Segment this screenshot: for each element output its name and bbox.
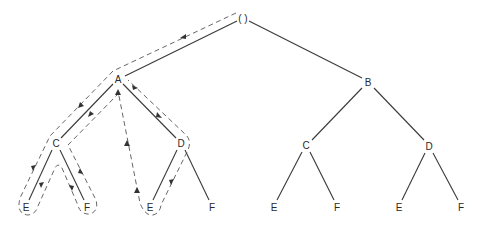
node-root: ( ) bbox=[238, 13, 247, 24]
traversal-path bbox=[19, 13, 236, 215]
trace-outer-left bbox=[19, 13, 236, 215]
node-A: A bbox=[115, 74, 122, 85]
edge-A-C bbox=[61, 84, 113, 138]
node-A-C: C bbox=[52, 138, 59, 149]
node-A-C-F: F bbox=[84, 202, 90, 213]
edge-BC-F bbox=[310, 152, 334, 200]
arrow-icon bbox=[69, 185, 74, 191]
arrow-icon bbox=[78, 168, 83, 174]
edge-root-A bbox=[125, 21, 237, 76]
edge-AC-F bbox=[60, 150, 84, 200]
edge-BD-F bbox=[433, 153, 458, 200]
node-A-D-E: E bbox=[147, 202, 154, 213]
node-B: B bbox=[365, 77, 372, 88]
edge-AC-E bbox=[29, 150, 52, 200]
edge-B-C bbox=[312, 88, 362, 140]
arrow-icon bbox=[78, 102, 84, 108]
arrow-icon bbox=[88, 111, 94, 117]
node-B-D-E: E bbox=[396, 202, 403, 213]
arrow-icon bbox=[124, 140, 130, 146]
node-A-D-F: F bbox=[209, 202, 215, 213]
edge-A-D bbox=[123, 84, 176, 138]
arrow-icon bbox=[39, 182, 44, 188]
edge-root-B bbox=[249, 21, 362, 78]
node-A-C-E: E bbox=[23, 202, 30, 213]
arrow-icon bbox=[180, 34, 186, 39]
arrow-icon bbox=[132, 85, 138, 90]
edge-AD-F bbox=[185, 150, 209, 200]
node-B-C-F: F bbox=[334, 202, 340, 213]
node-B-C: C bbox=[302, 140, 309, 151]
tree-edges bbox=[29, 21, 458, 200]
node-A-D: D bbox=[177, 138, 184, 149]
edge-BD-E bbox=[402, 153, 425, 200]
edge-AD-E bbox=[153, 150, 177, 200]
arrow-icon bbox=[156, 112, 162, 118]
node-B-D: D bbox=[425, 141, 432, 152]
tree-diagram: ( ) A B C D C D E F E F E F E F bbox=[0, 0, 477, 226]
arrow-icon bbox=[115, 89, 121, 95]
node-B-C-E: E bbox=[271, 202, 278, 213]
edge-B-D bbox=[374, 88, 424, 140]
arrow-icon bbox=[134, 187, 140, 193]
node-B-D-F: F bbox=[458, 202, 464, 213]
edge-BC-E bbox=[277, 152, 302, 200]
